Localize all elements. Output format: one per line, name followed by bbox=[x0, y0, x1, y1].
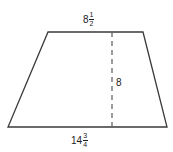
top-base-whole: 8 bbox=[83, 14, 89, 25]
height-value: 8 bbox=[116, 77, 122, 88]
bottom-base-denominator: 4 bbox=[83, 141, 88, 149]
height-label: 8 bbox=[116, 78, 122, 88]
top-base-denominator: 2 bbox=[89, 20, 94, 28]
top-base-fraction: 12 bbox=[89, 11, 94, 27]
top-base-label: 812 bbox=[83, 11, 94, 27]
bottom-base-fraction: 34 bbox=[83, 132, 88, 148]
top-base-numerator: 1 bbox=[89, 11, 94, 20]
trapezoid-figure: 812 8 1434 bbox=[0, 0, 173, 152]
bottom-base-label: 1434 bbox=[71, 132, 88, 148]
bottom-base-numerator: 3 bbox=[83, 132, 88, 141]
bottom-base-whole: 14 bbox=[71, 135, 82, 146]
trapezoid-outline bbox=[8, 32, 167, 127]
